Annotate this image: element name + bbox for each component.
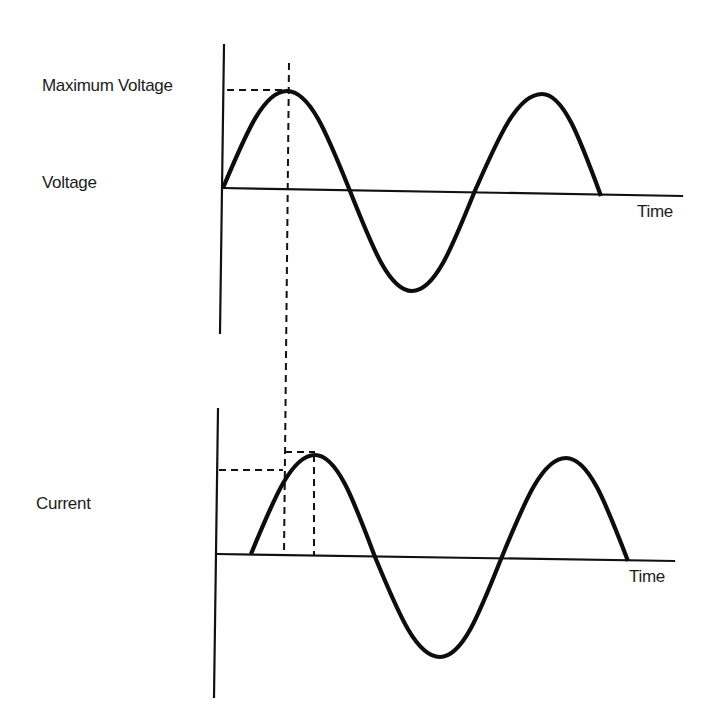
voltage-time-label: Time <box>637 203 673 220</box>
current-dashed-guides <box>219 452 315 555</box>
voltage-time-axis <box>223 188 682 196</box>
current-time-label: Time <box>629 568 665 585</box>
waveform-diagram <box>0 0 717 728</box>
voltage-dashed-guides <box>227 63 289 555</box>
voltage-panel <box>220 45 682 555</box>
current-axis-label: Current <box>36 495 91 512</box>
current-panel <box>214 409 674 697</box>
max-voltage-label: Maximum Voltage <box>42 77 173 94</box>
current-time-axis <box>217 554 674 561</box>
voltage-axis-label: Voltage <box>42 174 97 191</box>
